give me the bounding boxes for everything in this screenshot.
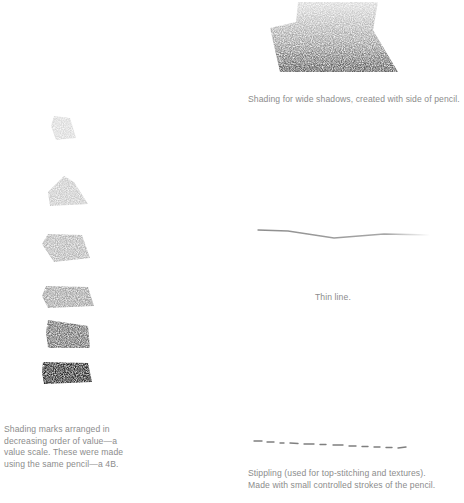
thin-line-stroke — [254, 225, 434, 245]
wide-shadow-shading — [268, 0, 408, 80]
value-scale-swatch-2 — [44, 174, 92, 210]
value-scale-swatch-3 — [42, 232, 92, 264]
stippling-strokes — [250, 436, 430, 452]
thin-line-caption: Thin line. — [315, 292, 351, 304]
value-scale-swatch-4 — [42, 284, 96, 310]
value-scale-swatch-1 — [48, 114, 78, 142]
value-scale-swatch-5 — [44, 320, 94, 350]
wide-shadow-caption: Shading for wide shadows, created with s… — [248, 94, 460, 106]
stippling-caption: Stippling (used for top-stitching and te… — [248, 468, 435, 491]
value-scale-caption: Shading marks arranged in decreasing ord… — [4, 424, 164, 470]
value-scale-swatch-6 — [40, 360, 94, 386]
